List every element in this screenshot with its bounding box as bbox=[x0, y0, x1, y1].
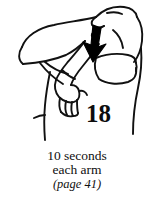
finger-3 bbox=[71, 102, 73, 116]
deltoid-line bbox=[113, 30, 123, 48]
hand-knuckle-line bbox=[107, 12, 122, 14]
exercise-illustration: 18 bbox=[0, 0, 154, 148]
forearm-top-edge bbox=[56, 41, 85, 80]
finger-4 bbox=[77, 100, 78, 113]
hand-back-contour bbox=[55, 80, 79, 102]
finger-2 bbox=[65, 101, 67, 115]
fingertip-edge bbox=[73, 113, 78, 116]
stretch-figure-drawing bbox=[0, 0, 154, 148]
exercise-number: 18 bbox=[86, 101, 111, 126]
chest-side-line bbox=[136, 63, 137, 71]
caption-side: each arm bbox=[0, 163, 154, 177]
finger-1 bbox=[59, 98, 61, 112]
elbow-curve bbox=[19, 47, 23, 64]
caption-page-reference: (page 41) bbox=[0, 177, 154, 192]
caption-block: 10 seconds each arm (page 41) bbox=[0, 149, 154, 192]
figure-outline-group bbox=[19, 7, 142, 140]
torso-left-flank bbox=[44, 72, 50, 140]
caption-duration: 10 seconds bbox=[0, 149, 154, 163]
chest-lower-line bbox=[95, 58, 136, 84]
chest-upper-line bbox=[96, 54, 136, 63]
wrist-crease bbox=[62, 70, 75, 79]
